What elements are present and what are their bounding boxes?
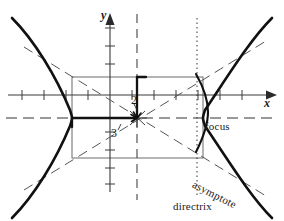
hyperbola-figure: y x 2 3 focus directrix asymptote [0, 0, 284, 221]
x-axis [8, 90, 277, 100]
semi-conjugate-label: 2 [131, 93, 137, 108]
directrix-label: directrix [173, 200, 212, 212]
y-axis-label: y [101, 8, 106, 23]
semi-transverse-label: 3 [111, 126, 117, 141]
focus-label: focus [205, 120, 230, 132]
leader-line-three [118, 124, 121, 130]
semi-transverse-measure [72, 115, 137, 128]
focus-curve [196, 74, 208, 152]
x-axis-label: x [264, 96, 270, 111]
asymptote-line-rising [24, 41, 266, 190]
diagram-canvas [0, 0, 284, 221]
y-axis-arrow-icon [106, 13, 115, 25]
